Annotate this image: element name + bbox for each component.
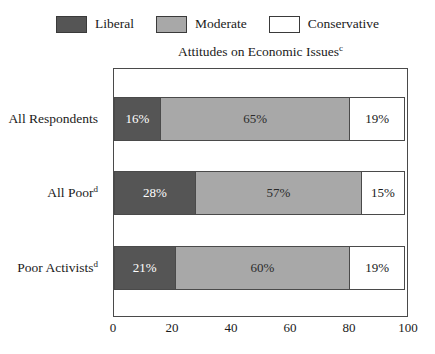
legend-entry-moderate: Moderate (156, 16, 247, 33)
chart-legend: Liberal Moderate Conservative (0, 12, 435, 36)
category-label-poor-activists: Poor Activistsd (0, 260, 98, 276)
legend-swatch-conservative-icon (269, 16, 300, 33)
chart-title-text: Attitudes on Economic Issues (178, 44, 339, 59)
bar-segment-liberal: 21% (114, 246, 176, 290)
bar-segment-liberal: 28% (114, 171, 196, 215)
x-axis-tick-label: 0 (110, 320, 117, 336)
table-row: 16% 65% 19% (114, 97, 407, 141)
x-axis-tick-label: 60 (284, 320, 297, 336)
legend-label-liberal: Liberal (95, 17, 134, 31)
x-axis-tick-label: 40 (225, 320, 238, 336)
category-label-footnote: d (94, 259, 99, 269)
category-label-text: All Poor (47, 185, 93, 200)
bar-segment-conservative: 19% (349, 246, 405, 290)
x-axis: 020406080100 (113, 320, 408, 340)
bar-segment-moderate: 65% (160, 97, 350, 141)
legend-swatch-moderate-icon (156, 16, 187, 33)
bar-segment-conservative: 15% (361, 171, 405, 215)
chart-title-footnote: c (339, 43, 343, 53)
x-axis-tick-label: 100 (398, 320, 418, 336)
x-axis-tick-label: 80 (343, 320, 356, 336)
category-label-all-respondents: All Respondents (0, 111, 98, 127)
category-label-text: All Respondents (8, 111, 98, 126)
bar-segment-conservative: 19% (349, 97, 405, 141)
table-row: 21% 60% 19% (114, 246, 407, 290)
legend-label-conservative: Conservative (308, 17, 379, 31)
bar-segment-liberal: 16% (114, 97, 161, 141)
x-axis-tick-label: 20 (166, 320, 179, 336)
table-row: 28% 57% 15% (114, 171, 407, 215)
legend-entry-conservative: Conservative (269, 16, 379, 33)
bar-segment-moderate: 57% (195, 171, 362, 215)
category-label-footnote: d (94, 184, 99, 194)
legend-label-moderate: Moderate (195, 17, 247, 31)
chart-title: Attitudes on Economic Issuesc (113, 44, 408, 60)
category-label-all-poor: All Poord (0, 185, 98, 201)
bar-segment-moderate: 60% (175, 246, 351, 290)
legend-swatch-liberal-icon (56, 16, 87, 33)
category-label-text: Poor Activists (17, 260, 93, 275)
plot-area: 16% 65% 19% 28% 57% 15% 21% 60% 19% (113, 68, 408, 317)
legend-entry-liberal: Liberal (56, 16, 134, 33)
